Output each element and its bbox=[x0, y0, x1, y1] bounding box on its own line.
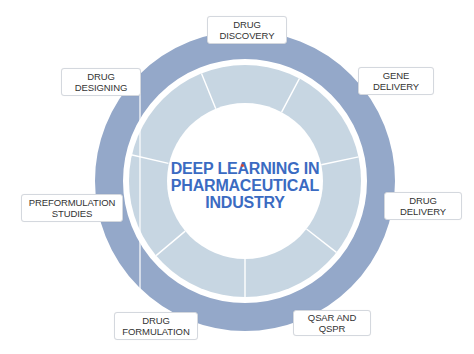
label-text: DELIVERY bbox=[373, 81, 419, 92]
label-gene-delivery: GENE DELIVERY bbox=[358, 67, 434, 95]
label-qsar-and-qspr: QSAR AND QSPR bbox=[293, 310, 371, 336]
label-drug-discovery: DRUG DISCOVERY bbox=[207, 16, 287, 44]
label-drug-formulation: DRUG FORMULATION bbox=[114, 312, 198, 340]
label-text: DRUG bbox=[409, 195, 437, 206]
label-text: DELIVERY bbox=[400, 206, 446, 217]
center-title-line-2: PHARMACEUTICAL bbox=[155, 177, 335, 194]
label-drug-designing: DRUG DESIGNING bbox=[61, 68, 141, 96]
label-preformulation-studies: PREFORMULATION STUDIES bbox=[21, 194, 123, 222]
center-title-line-1: DEEP LEARNING IN bbox=[155, 160, 335, 177]
label-text: GENE bbox=[383, 70, 410, 81]
label-text: DRUG bbox=[233, 19, 261, 30]
label-drug-delivery: DRUG DELIVERY bbox=[384, 192, 462, 220]
label-text: QSAR AND QSPR bbox=[294, 312, 370, 334]
label-text: FORMULATION bbox=[122, 326, 189, 337]
center-title: DEEP LEARNING IN PHARMACEUTICAL INDUSTRY bbox=[155, 160, 335, 211]
label-text: PREFORMULATION bbox=[29, 197, 116, 208]
deep-learning-pharma-diagram: DEEP LEARNING IN PHARMACEUTICAL INDUSTRY… bbox=[0, 0, 474, 354]
center-title-line-3: INDUSTRY bbox=[155, 194, 335, 211]
label-text: DRUG bbox=[142, 315, 170, 326]
accent-dot bbox=[241, 164, 244, 167]
label-text: DISCOVERY bbox=[220, 30, 275, 41]
label-text: STUDIES bbox=[52, 208, 92, 219]
label-text: DESIGNING bbox=[75, 82, 127, 93]
label-text: DRUG bbox=[87, 71, 115, 82]
